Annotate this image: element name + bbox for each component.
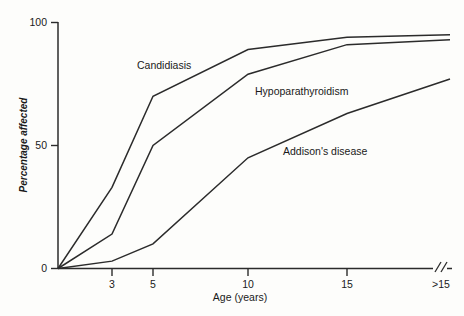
y-tick-label-100: 100 — [29, 16, 47, 28]
series-line-candidiasis — [58, 35, 450, 269]
series-label-hypoparathyroidism: Hypoparathyroidism — [255, 85, 349, 97]
x-tick-label-3: 3 — [109, 278, 115, 290]
y-tick-label-0: 0 — [41, 262, 47, 274]
y-axis-title: Percentage affected — [18, 97, 29, 193]
axis-break-icon — [435, 262, 441, 272]
x-tick-label-10: 10 — [242, 278, 254, 290]
series-label-addisons: Addison's disease — [283, 145, 367, 157]
x-tick-label-gt15: >15 — [432, 278, 450, 290]
series-line-hypoparathyroidism — [58, 40, 450, 269]
chart-figure: 0 50 100 3 5 10 15 >15 Candidiasis Hypop… — [0, 0, 464, 316]
x-tick-label-15: 15 — [341, 278, 353, 290]
series-line-addisons — [58, 79, 450, 268]
series-label-candidiasis: Candidiasis — [137, 59, 191, 71]
y-tick-label-50: 50 — [35, 139, 47, 151]
chart-svg: 0 50 100 3 5 10 15 >15 Candidiasis Hypop… — [0, 0, 464, 316]
x-tick-label-5: 5 — [150, 278, 156, 290]
axis-break-icon-2 — [441, 262, 447, 272]
x-axis-title: Age (years) — [213, 291, 267, 303]
